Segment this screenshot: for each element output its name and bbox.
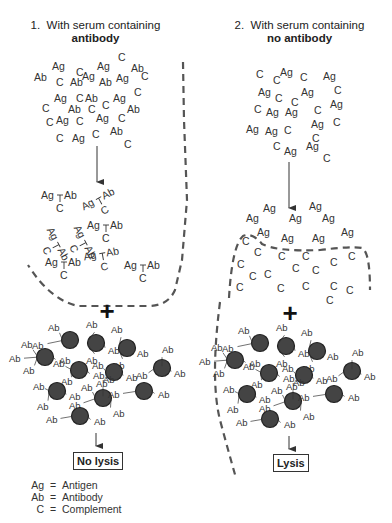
antibody-label: Ab xyxy=(236,417,248,428)
antibody-label: Ab xyxy=(68,103,81,115)
antibody-label: Ab xyxy=(81,382,93,393)
antigen-label: Ag xyxy=(45,256,58,268)
complement-label: C xyxy=(92,128,100,140)
lysis-label: Lysis xyxy=(273,454,309,472)
complement-label: C xyxy=(348,250,356,262)
antibody-label: Ab xyxy=(105,244,120,258)
antigen-label: Ag xyxy=(265,125,278,137)
sensitized-red-cell: AbAb xyxy=(298,386,360,404)
red-cell-icon xyxy=(239,386,256,403)
complement-label: C xyxy=(46,116,54,128)
complement-label: C xyxy=(302,250,310,262)
antibody-label: Ab xyxy=(110,219,123,231)
right-serum-mixture: CCAgCAgAgCCAgCCAgAgCAgAgAgCAgCCAgAgCC xyxy=(246,66,343,164)
complement-label: C xyxy=(118,51,126,63)
antigen-antibody-complement-complexes: AgAbCAgAbCAgAbCAgAbCAgAbCAgAbCAgAbCAgAbC xyxy=(33,185,160,284)
left-serum-mixture: AgCAgCAbCAbAgAbAgAbCCAgCAbAgCAbCCAbCAgCA… xyxy=(34,51,149,150)
left-plus-sign: + xyxy=(99,296,114,326)
antigen-label: Ag xyxy=(87,219,100,231)
no-lysis-label: No lysis xyxy=(73,452,123,470)
antibody-label: Ab xyxy=(86,319,98,330)
antibody-label: Ab xyxy=(238,325,250,336)
complement-label: C xyxy=(312,132,320,144)
legend-row-complement: C = Complement xyxy=(20,503,122,515)
antigen-label: Ag xyxy=(263,202,276,214)
red-cell-icon xyxy=(62,332,79,349)
complement-label: C xyxy=(118,112,126,124)
antigen-label: Ag xyxy=(281,232,294,244)
antibody-label: Ab xyxy=(227,404,239,415)
antibody-label: Ab xyxy=(99,185,116,202)
complement-label: C xyxy=(56,132,64,144)
legend-meaning: Antigen xyxy=(62,479,98,491)
antibody-label: Ab xyxy=(99,76,112,88)
antibody-label: Ab xyxy=(352,347,364,358)
antigen-label: Ag xyxy=(113,92,126,104)
complement-label: C xyxy=(60,269,68,281)
antibody-label: Ab xyxy=(94,416,106,427)
antigen-label: Ag xyxy=(309,200,322,212)
complement-label: C xyxy=(42,102,50,114)
complement-label: C xyxy=(300,71,308,83)
complement-label: C xyxy=(139,272,147,284)
red-cell-icon xyxy=(262,411,279,428)
complement-label: C xyxy=(302,280,310,292)
complement-label: C xyxy=(330,280,338,292)
legend-symbol: Ag xyxy=(20,479,44,491)
complement-label: C xyxy=(56,202,64,214)
complement-label: C xyxy=(76,115,84,127)
complement-label: C xyxy=(134,86,142,98)
complement-label: C xyxy=(312,264,320,276)
antigen-label: Ag xyxy=(330,98,343,110)
antibody-label: Ab xyxy=(108,389,120,400)
complement-label: C xyxy=(102,232,110,244)
legend-equals: = xyxy=(44,503,62,515)
antigen-label: Ag xyxy=(116,72,129,84)
antigen-label: Ag xyxy=(284,145,297,157)
antibody-label: Ab xyxy=(53,358,65,369)
antigen-label: Ag xyxy=(82,248,97,262)
antibody-label: Ab xyxy=(276,322,288,333)
red-cell-icon xyxy=(326,386,343,403)
red-cell-icon xyxy=(261,365,278,382)
antibody-label: Ab xyxy=(298,348,310,359)
antibody-label: Ab xyxy=(46,414,58,425)
antibody-label: Ab xyxy=(211,342,223,353)
antigen-label: Ag xyxy=(322,212,335,224)
antibody-label: Ab xyxy=(293,377,305,388)
legend-symbol: C xyxy=(20,503,44,515)
complement-label: C xyxy=(334,84,342,96)
red-cell-icon xyxy=(227,352,244,369)
antibody-label: Ab xyxy=(282,363,294,374)
complement-label: C xyxy=(56,76,64,88)
complement-label: C xyxy=(102,99,110,111)
antibody-label: Ab xyxy=(327,351,339,362)
complement-label: C xyxy=(284,124,292,136)
immune-complex: AgAbC xyxy=(79,185,123,224)
complement-label: C xyxy=(141,70,149,82)
antibody-label: Ab xyxy=(37,401,49,412)
red-cell-icon xyxy=(71,362,88,379)
antibody-label: Ab xyxy=(68,256,81,268)
complement-label: C xyxy=(256,68,264,80)
antigen-label: Ag xyxy=(312,232,325,244)
antibody-label: Ab xyxy=(326,373,338,384)
immune-complex: AgAbC xyxy=(82,244,122,275)
antibody-label: Ab xyxy=(223,384,235,395)
complement-label: C xyxy=(326,294,334,306)
sensitized-red-cell: AbAb xyxy=(32,322,79,351)
antigen-label: Ag xyxy=(246,123,259,135)
antibody-label: Ab xyxy=(158,389,170,400)
antigen-label: Ag xyxy=(96,112,109,124)
legend-row-antibody: Ab = Antibody xyxy=(20,491,122,503)
antigen-label: Ag xyxy=(257,226,270,238)
antigen-label: Ag xyxy=(285,106,298,118)
complement-label: C xyxy=(249,270,257,282)
immune-complex: AgAbC xyxy=(41,189,77,214)
antigen-label: Ag xyxy=(301,86,314,98)
antigen-label: Ag xyxy=(56,114,69,126)
antibody-label: Ab xyxy=(64,189,77,201)
antibody-label: Ab xyxy=(348,392,360,403)
red-cell-icon xyxy=(252,335,269,352)
antibody-label: Ab xyxy=(136,370,148,381)
